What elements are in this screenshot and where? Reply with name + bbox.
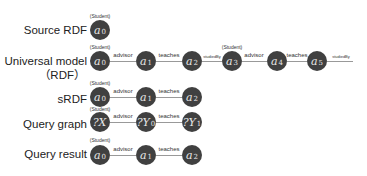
type-label: (Student) <box>90 137 111 143</box>
edge <box>156 122 182 123</box>
row-label-srdf: sRDF <box>58 93 87 106</box>
edge <box>110 61 136 62</box>
row-label-universal-model-sub: （RDF） <box>39 69 85 82</box>
edge <box>202 61 222 62</box>
node-a2: a2 <box>182 51 202 71</box>
node-a2: a2 <box>182 87 202 107</box>
edge <box>156 61 182 62</box>
node-y0: ?Y0 <box>136 112 156 132</box>
type-label: (Student) <box>222 44 243 50</box>
type-label: (Student) <box>90 80 111 86</box>
row-label-query-result: Query result <box>24 148 87 161</box>
edge <box>287 61 307 62</box>
edge <box>156 97 182 98</box>
edge-label-teaches: teaches <box>286 52 307 58</box>
node-a1: a1 <box>136 145 156 165</box>
node-x: ?X <box>90 112 110 132</box>
edge-label-teaches: teaches <box>158 52 179 58</box>
edge-label-advisor: advisor <box>113 146 132 152</box>
node-a0: a0 <box>90 20 110 40</box>
edge-label-teaches: teaches <box>158 88 179 94</box>
type-label: (Student) <box>90 44 111 50</box>
edge-label-advisor: advisor <box>113 113 132 119</box>
edge-label-teaches: teaches <box>158 146 179 152</box>
row-label-universal-model: Universal model <box>5 55 87 68</box>
node-y1: ?Y1 <box>182 112 202 132</box>
edge-label-studiedby: studiedBy <box>332 54 350 59</box>
edge <box>327 61 353 62</box>
row-label-source-rdf: Source RDF <box>24 24 87 37</box>
node-a0: a0 <box>90 51 110 71</box>
node-a0: a0 <box>90 87 110 107</box>
edge-label-advisor: advisor <box>244 52 263 58</box>
edge <box>110 155 136 156</box>
node-a0: a0 <box>90 145 110 165</box>
node-a1: a1 <box>136 51 156 71</box>
type-label: (Student) <box>90 13 111 19</box>
edge-label-teaches: teaches <box>158 113 179 119</box>
edge <box>156 155 182 156</box>
edge <box>242 61 267 62</box>
edge-label-advisor: advisor <box>113 52 132 58</box>
edge-label-studiedby: studiedBy <box>203 54 221 59</box>
node-a3: a3 <box>222 51 242 71</box>
node-a4: a4 <box>267 51 287 71</box>
edge <box>110 97 136 98</box>
row-label-query-graph: Query graph <box>23 118 87 131</box>
node-a1: a1 <box>136 87 156 107</box>
edge-label-advisor: advisor <box>113 88 132 94</box>
node-a2: a2 <box>182 145 202 165</box>
node-a5: a5 <box>307 51 327 71</box>
edge <box>110 122 136 123</box>
